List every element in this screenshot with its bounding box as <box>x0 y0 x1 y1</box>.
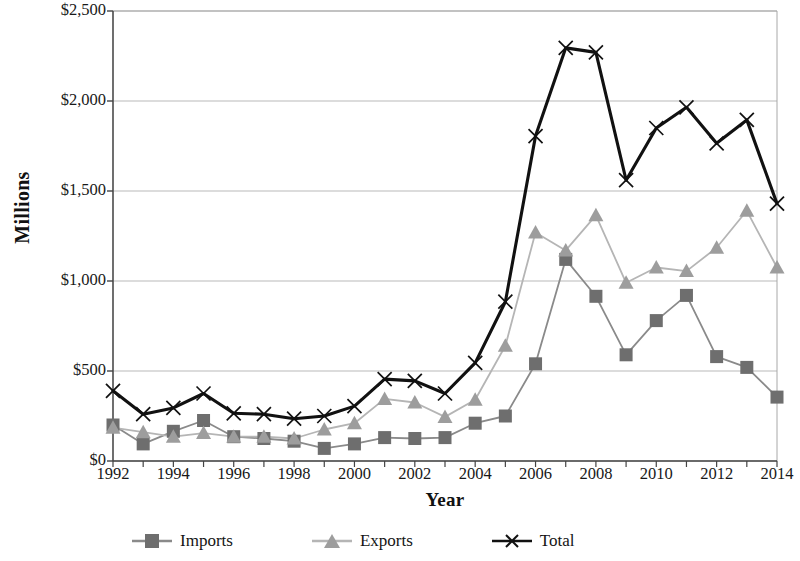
data-point <box>649 121 663 135</box>
legend-swatch-total-icon <box>491 532 533 550</box>
data-point <box>740 361 753 374</box>
data-point <box>589 290 602 303</box>
data-point <box>468 356 482 370</box>
legend-item-exports: Exports <box>311 531 413 551</box>
data-point <box>137 437 150 450</box>
x-tick-label: 1994 <box>143 464 203 484</box>
data-point <box>739 203 754 217</box>
legend-label-imports: Imports <box>180 531 233 551</box>
x-tick-label: 2002 <box>385 464 445 484</box>
data-point <box>740 113 754 127</box>
series-line-exports <box>113 211 777 439</box>
x-tick-label: 1998 <box>264 464 324 484</box>
legend-label-total: Total <box>540 531 575 551</box>
data-point <box>196 426 211 440</box>
x-tick-label: 1992 <box>83 464 143 484</box>
data-point <box>439 431 452 444</box>
x-tick-label: 1996 <box>204 464 264 484</box>
y-tick-label: $1,500 <box>34 180 106 200</box>
series-markers-imports <box>107 253 784 455</box>
x-tick-label: 2008 <box>566 464 626 484</box>
data-point <box>469 417 482 430</box>
x-tick-label: 2010 <box>626 464 686 484</box>
data-point <box>620 348 633 361</box>
data-point <box>498 338 513 352</box>
legend-swatch-imports-icon <box>131 532 173 550</box>
data-point <box>528 225 543 239</box>
data-point <box>771 391 784 404</box>
data-point <box>679 100 693 114</box>
line-chart: Millions $0$500$1,000$1,500$2,000$2,500 … <box>0 0 800 561</box>
series-markers-exports <box>106 203 785 444</box>
data-point <box>378 431 391 444</box>
data-point <box>499 410 512 423</box>
x-axis-title: Year <box>113 489 777 511</box>
x-tick-label: 2000 <box>324 464 384 484</box>
legend-label-exports: Exports <box>360 531 413 551</box>
data-point <box>529 357 542 370</box>
x-tick-label: 2006 <box>506 464 566 484</box>
series-line-total <box>113 48 777 419</box>
chart-legend: Imports Exports Total <box>113 524 777 558</box>
series-markers-total <box>106 41 784 426</box>
data-point <box>710 136 724 150</box>
y-tick-label: $2,500 <box>34 0 106 20</box>
x-tick-label: 2012 <box>687 464 747 484</box>
data-point <box>347 416 362 430</box>
data-point <box>710 350 723 363</box>
data-point <box>650 314 663 327</box>
x-tick-label: 2014 <box>747 464 800 484</box>
data-point <box>468 392 483 406</box>
data-point <box>619 275 634 289</box>
data-point <box>197 414 210 427</box>
data-point <box>588 208 603 222</box>
y-tick-label: $1,000 <box>34 270 106 290</box>
legend-swatch-exports-icon <box>311 532 353 550</box>
data-point <box>770 260 785 274</box>
data-point <box>680 289 693 302</box>
legend-item-total: Total <box>491 531 575 551</box>
data-point <box>377 391 392 405</box>
data-point <box>348 437 361 450</box>
data-point <box>438 387 452 401</box>
data-point <box>438 409 453 423</box>
x-tick-label: 2004 <box>445 464 505 484</box>
data-point <box>318 442 331 455</box>
y-axis-tick-labels: $0$500$1,000$1,500$2,000$2,500 <box>28 0 106 461</box>
data-point <box>649 260 664 274</box>
y-tick-label: $500 <box>34 360 106 380</box>
legend-item-imports: Imports <box>131 531 233 551</box>
data-point <box>197 387 211 401</box>
data-point <box>408 432 421 445</box>
y-tick-label: $2,000 <box>34 90 106 110</box>
